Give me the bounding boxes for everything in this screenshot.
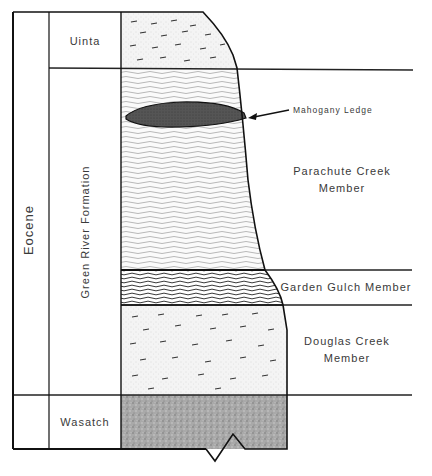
uinta-label: Uinta xyxy=(70,35,101,47)
stratigraphic-diagram: Eocene Uinta Green River Formation Wasat… xyxy=(0,0,432,476)
parachute-creek-label-line1: Parachute Creek xyxy=(293,165,391,177)
lithology-column xyxy=(121,12,301,455)
garden-gulch-label: Garden Gulch Member xyxy=(281,281,412,293)
mahogany-ledge-label: Mahogany Ledge xyxy=(293,105,373,115)
mahogany-arrow-shaft xyxy=(254,110,289,117)
parachute-creek-label-line2: Member xyxy=(319,182,365,194)
green-river-formation-label: Green River Formation xyxy=(79,166,91,299)
epoch-label: Eocene xyxy=(21,205,36,255)
wasatch-unit xyxy=(121,395,301,455)
douglas-creek-unit xyxy=(121,305,301,395)
parachute-lamination xyxy=(121,68,301,270)
douglas-creek-label-line2: Member xyxy=(324,352,370,364)
mahogany-arrow-head-icon xyxy=(248,113,257,120)
douglas-creek-label-line1: Douglas Creek xyxy=(304,335,390,347)
garden-gulch-wavy xyxy=(121,270,301,305)
wasatch-label: Wasatch xyxy=(60,416,109,428)
